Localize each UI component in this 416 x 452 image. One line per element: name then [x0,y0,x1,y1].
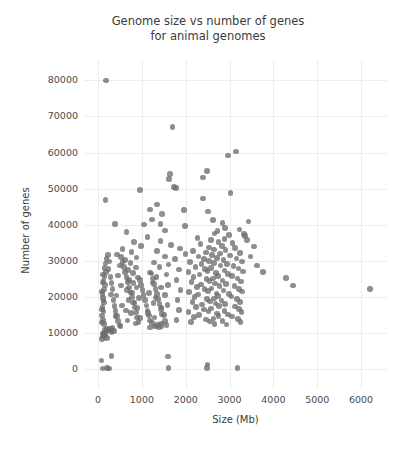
scatter-point [177,246,183,252]
y-axis-tick-label: 10000 [22,327,78,338]
scatter-point [159,211,165,217]
scatter-point [187,259,193,265]
scatter-point [240,269,246,275]
scatter-point [290,283,296,289]
scatter-point [239,259,245,265]
scatter-point [137,187,143,193]
scatter-point [205,209,211,215]
scatter-point [112,221,118,227]
scatter-point [206,309,212,315]
x-axis-tick-label: 6000 [331,394,391,405]
scatter-point [164,272,170,278]
scatter-point [239,309,245,315]
scatter-point [204,168,210,174]
scatter-point [205,288,211,294]
scatter-point [158,285,164,291]
scatter-point [134,255,140,261]
scatter-point [244,237,250,243]
scatter-point [165,282,171,288]
scatter-point [103,78,109,84]
plot-area [88,66,383,385]
scatter-point [172,256,178,262]
scatter-point [168,242,174,248]
scatter-point [207,299,213,305]
scatter-point [107,259,113,265]
scatter-point [109,280,115,286]
scatter-point [166,262,172,268]
scatter-point [147,325,153,331]
scatter-point [210,217,216,223]
scatter-point [189,279,195,285]
scatter-point [229,273,235,279]
scatter-point [120,246,126,252]
scatter-point [200,175,206,181]
scatter-point [109,329,115,335]
scatter-point [174,277,180,283]
scatter-point [176,267,182,273]
scatter-point [223,247,229,253]
scatter-point [198,241,204,247]
scatter-point [149,217,155,223]
scatter-point [254,263,260,269]
scatter-point [241,231,247,237]
scatter-chart-figure: Genome size vs number of genes for anima… [0,0,416,452]
scatter-point [165,302,171,308]
scatter-point [205,268,211,274]
scatter-point [162,292,168,298]
scatter-point [176,307,182,313]
scatter-point [224,261,230,267]
scatter-point [166,365,172,371]
scatter-point [104,335,110,341]
scatter-point [125,318,131,324]
scatter-point [115,273,121,279]
scatter-point [186,269,192,275]
scatter-point [138,243,144,249]
scatter-point [99,358,105,364]
scatter-point [212,231,218,237]
scatter-point [226,232,232,238]
scatter-point [237,250,243,256]
scatter-point [159,311,165,317]
scatter-point [205,362,211,368]
scatter-point [170,124,176,130]
scatter-point [103,197,109,203]
scatter-point [175,297,181,303]
scatter-point [246,219,252,225]
scatter-point [237,299,243,305]
scatter-point [154,248,160,254]
chart-title: Genome size vs number of genes for anima… [0,14,416,44]
scatter-point [367,286,373,292]
scatter-point [129,249,135,255]
y-axis-tick-label: 70000 [22,110,78,121]
scatter-point [186,289,192,295]
scatter-point [238,279,244,285]
scatter-point [146,290,152,296]
scatter-point [211,247,217,253]
scatter-point [260,269,266,275]
scatter-point [136,319,142,325]
scatter-point [193,264,199,270]
scatter-point [147,207,153,213]
scatter-point [208,237,214,243]
y-axis-tick-label: 0 [22,363,78,374]
scatter-point [188,319,194,325]
scatter-point [162,254,168,260]
scatter-point [151,260,157,266]
scatter-point [145,234,151,240]
scatter-point [195,235,201,241]
scatter-point [238,319,244,325]
y-axis-label: Number of genes [20,161,31,301]
scatter-point [174,317,180,323]
scatter-point [216,303,222,309]
y-axis-tick-label: 60000 [22,147,78,158]
scatter-point [106,366,112,372]
y-axis-tick-label: 80000 [22,74,78,85]
scatter-point [203,250,209,256]
scatter-point [141,222,147,228]
scatter-point [131,239,137,245]
scatter-point [111,297,117,303]
scatter-point [99,307,105,313]
scatter-point [173,185,179,191]
scatter-point [158,221,164,227]
scatter-point [105,252,111,258]
